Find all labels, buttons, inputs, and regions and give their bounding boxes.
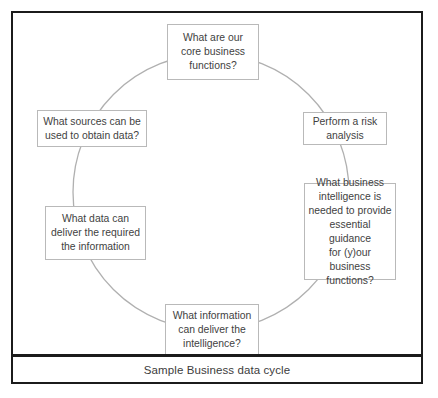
line-3: intelligence? [183, 337, 241, 351]
line-2: intelligence is [319, 190, 381, 204]
cycle-node-information-delivers-intelligence[interactable]: What information can deliver the intelli… [165, 304, 259, 355]
cycle-node-sources-to-obtain-data[interactable]: What sources can be used to obtain data? [37, 110, 147, 147]
cycle-node-data-delivers-information[interactable]: What data can deliver the required the i… [45, 206, 146, 260]
line-2: deliver the required [51, 226, 140, 240]
line-6: functions? [326, 274, 373, 288]
figure-caption: Sample Business data cycle [144, 364, 290, 376]
figure-caption-bar: Sample Business data cycle [13, 354, 421, 382]
line-4: essential guidance [308, 218, 392, 246]
line-1: What data can [62, 212, 129, 226]
line-3: the information [61, 240, 130, 254]
line-1: What business [316, 176, 384, 190]
line-3: needed to provide [308, 204, 391, 218]
line-1: What information [173, 309, 252, 323]
line-1: What sources can be [43, 115, 141, 129]
cycle-node-core-business-functions[interactable] [167, 24, 259, 80]
line-2: analysis [326, 129, 364, 143]
diagram-canvas: What are our core business functions? Pe… [13, 13, 421, 361]
cycle-node-risk-analysis[interactable]: Perform a risk analysis [303, 112, 387, 145]
line-2: used to obtain data? [45, 129, 139, 143]
line-5: for (y)our business [308, 246, 392, 274]
figure-container: What are our core business functions? Pe… [0, 0, 438, 398]
figure-frame: What are our core business functions? Pe… [11, 11, 423, 384]
line-1: Perform a risk [313, 115, 378, 129]
cycle-node-business-intelligence[interactable]: What business intelligence is needed to … [304, 183, 396, 280]
line-2: can deliver the [178, 323, 246, 337]
